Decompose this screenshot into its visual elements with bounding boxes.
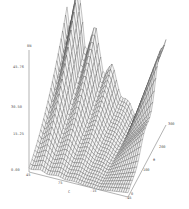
x-axis-title: C [68, 191, 70, 195]
surface-plot [0, 0, 189, 209]
y-tick-label: 100 [143, 169, 150, 173]
y-tick-label: 200 [159, 146, 166, 150]
z-tick-label: 30.50 [11, 106, 22, 110]
x-tick-label: 45 [26, 174, 30, 178]
x-tick-label: -45 [125, 197, 132, 201]
y-axis-title: θ [153, 159, 155, 163]
z-tick-label: 45.76 [13, 66, 24, 70]
y-tick-label: 300 [168, 123, 175, 127]
x-tick-label: 75 [58, 182, 62, 186]
z-tick-label: 15.25 [13, 133, 24, 137]
z-tick-label: 0.00 [11, 169, 20, 173]
x-tick-label: -15 [90, 190, 97, 194]
y-tick-label: 0 [131, 193, 133, 197]
z-axis-title: δN [27, 45, 31, 49]
